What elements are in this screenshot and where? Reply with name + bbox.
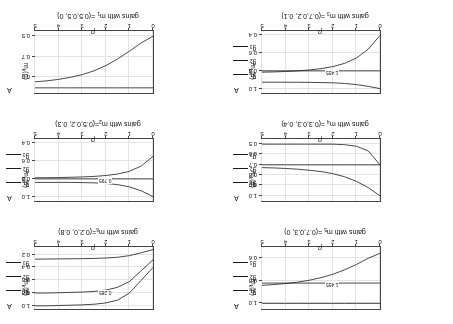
y-tick-label: 0.4 (22, 265, 30, 271)
y-tick-label: 0.7 (22, 54, 30, 60)
legend-line-sample (233, 290, 248, 291)
x-tick-label: 2 (331, 239, 334, 245)
panel-m3-curves (262, 31, 380, 93)
curve-annotation: 1.455 (325, 282, 340, 288)
legend-line-sample (6, 290, 21, 291)
curve-annotation: 0.285 (98, 290, 113, 296)
y-axis-title: mk(p) (21, 63, 30, 80)
series-g3 (262, 253, 380, 285)
legend-line-sample (233, 262, 248, 263)
panel-m1-caption: gains with m1 =(0.5,0.5, 0) (18, 11, 178, 20)
panel-m5-panel: Ag1g2g30123450.60.81.01.455pmk(p)gains w… (227, 216, 453, 324)
legend-line-sample (233, 182, 248, 183)
x-tick-label: 1 (128, 239, 131, 245)
legend-title: A (7, 303, 12, 310)
x-tick-label: 4 (57, 131, 60, 137)
y-tick-label: 1.0 (249, 86, 257, 92)
x-tick-label: 3 (308, 239, 311, 245)
panel-m5-axes: 0123450.60.81.0 (261, 246, 381, 310)
panel-m1-curves (35, 31, 153, 93)
y-tick-label: 0.5 (249, 141, 257, 147)
x-axis-title: p (318, 245, 322, 252)
legend-title: A (234, 303, 239, 310)
x-tick-label: 5 (33, 239, 36, 245)
x-tick-label: 3 (81, 131, 84, 137)
legend-title: A (7, 87, 12, 94)
legend-line-sample (6, 168, 21, 169)
panel-m6-axes: 0123450.20.40.60.81.0 (34, 246, 154, 310)
panel-m2-curves (35, 139, 153, 201)
panel-m2: Ag1g2g30123450.40.60.81.00.795pmk(p)gain… (0, 108, 226, 216)
y-tick-label: 0.6 (249, 50, 257, 56)
y-axis-title: mk(p) (21, 171, 30, 188)
panel-m1: A0123450.50.70.9pmk(p)gains with m1 =(0.… (0, 0, 226, 108)
figure-sheet: Ag1g2g30123450.60.81.01.455pmk(p)gains w… (0, 0, 453, 324)
y-tick-label: 1.0 (249, 193, 257, 199)
panel-m4-axes: 0123450.50.60.70.80.91.0 (261, 138, 381, 202)
panel-m5-caption: gains with m5 =(0.7,0.3, 0) (245, 227, 405, 236)
y-tick-label: 0.2 (22, 252, 30, 258)
x-tick-label: 5 (33, 131, 36, 137)
x-tick-label: 3 (81, 239, 84, 245)
panel-m3-axes: 0123450.40.60.81.0 (261, 30, 381, 94)
panel-m1-panel: A0123450.50.70.9pmk(p)gains with m1 =(0.… (0, 0, 226, 108)
y-tick-label: 1.0 (22, 194, 30, 200)
panel-m2-panel: Ag1g2g30123450.40.60.81.00.795pmk(p)gain… (0, 108, 226, 216)
x-axis-title: p (318, 29, 322, 36)
legend-line-sample (233, 60, 248, 61)
y-tick-label: 0.4 (249, 32, 257, 38)
panel-m4-curves (262, 139, 380, 201)
legend-line-sample (6, 276, 21, 277)
x-tick-label: 2 (104, 239, 107, 245)
x-tick-label: 5 (260, 239, 263, 245)
x-tick-label: 5 (33, 23, 36, 29)
legend-title: A (7, 195, 12, 202)
x-axis-title: p (91, 245, 95, 252)
series-g3 (262, 35, 380, 72)
y-tick-label: 0.6 (249, 152, 257, 158)
x-tick-label: 0 (151, 239, 154, 245)
y-tick-label: 1.0 (22, 303, 30, 309)
series-g3 (35, 156, 153, 178)
x-tick-label: 4 (284, 131, 287, 137)
series-g1 (262, 168, 380, 196)
x-tick-label: 1 (128, 23, 131, 29)
x-tick-label: 2 (104, 131, 107, 137)
panel-m6: Ag1g2g30123450.20.40.60.81.00.285pmk(p)g… (0, 216, 226, 324)
series-g3 (262, 144, 380, 165)
x-tick-label: 0 (378, 239, 381, 245)
panel-m4-caption: gains with m4 =(0.3,0.3, 0.4) (245, 119, 405, 128)
x-tick-label: 1 (128, 131, 131, 137)
x-tick-label: 2 (104, 23, 107, 29)
x-tick-label: 4 (57, 239, 60, 245)
x-tick-label: 2 (331, 131, 334, 137)
x-axis-title: p (91, 29, 95, 36)
x-tick-label: 4 (284, 239, 287, 245)
legend-title: A (234, 87, 239, 94)
figure-grid: Ag1g2g30123450.60.81.01.455pmk(p)gains w… (0, 0, 453, 324)
panel-m5-curves (262, 247, 380, 309)
series-g1 (35, 182, 153, 196)
panel-m4-panel: Ag1g2g30123450.50.60.70.80.91.0pmk(p)gai… (227, 108, 453, 216)
x-tick-label: 3 (81, 23, 84, 29)
x-tick-label: 4 (284, 23, 287, 29)
panel-m6-caption: gains with m6=(0.2,0, 0.8) (18, 227, 178, 236)
panel-m2-caption: gains with m2=(0.5,0.2, 0.3) (18, 119, 178, 128)
x-tick-label: 1 (355, 131, 358, 137)
y-axis-title: mk(p) (248, 279, 257, 296)
y-tick-label: 0.7 (249, 162, 257, 168)
x-tick-label: 5 (260, 131, 263, 137)
x-axis-title: p (91, 137, 95, 144)
x-tick-label: 0 (378, 23, 381, 29)
y-tick-label: 0.6 (249, 255, 257, 261)
legend-line-sample (233, 154, 248, 155)
panel-m1-axes: 0123450.50.70.9 (34, 30, 154, 94)
x-tick-label: 1 (355, 239, 358, 245)
legend-line-sample (6, 262, 21, 263)
series-g1 (262, 82, 380, 88)
legend-line-sample (233, 168, 248, 169)
y-axis-title: mk(p) (248, 171, 257, 188)
legend-line-sample (233, 46, 248, 47)
x-tick-label: 4 (57, 23, 60, 29)
y-tick-label: 0.6 (22, 158, 30, 164)
